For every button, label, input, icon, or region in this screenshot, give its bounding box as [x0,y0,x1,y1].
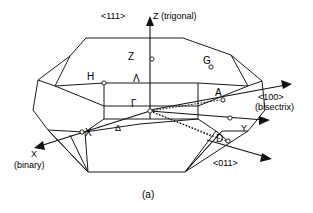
upper-facet-edge-rightmid [231,55,262,81]
lower-front-right-slant [198,119,216,131]
oblique-direction-label: <011> [213,159,238,168]
bisectrix-sub-label: (bisectrix) [255,103,294,112]
point-d-marker [226,139,230,143]
point-h-marker [102,81,106,85]
line-lambda-label: Λ [133,74,140,85]
oblique-direction-arrowhead [260,153,272,162]
figure-caption: (a) [142,190,154,201]
z-axis-direction-label: <111> [101,12,125,21]
bisectrix-axis-arrowhead [281,80,292,89]
x-axis-line [40,111,150,146]
point-gamma-marker [148,109,152,113]
dotted-gamma-to-dcorner [150,111,226,141]
point-a-marker [221,98,225,102]
point-gamma-label: Γ [131,99,137,110]
front-face-link-topright [198,83,248,86]
bottom-strut-left-fan [48,130,88,172]
line-delta-label: Δ [115,124,121,133]
point-z-marker [150,57,154,61]
y-axis-label: Y [241,124,247,133]
y-axis-arrowhead [259,116,270,125]
upper-facet-edge-leftmid [38,56,70,80]
upper-facet-edge-right [248,81,262,86]
point-x-marker [80,130,84,134]
front-face-link-topleft [55,83,104,86]
point-d-label: D [216,134,223,145]
upper-facet-edge-left [38,80,55,86]
point-x-label: X [85,128,92,139]
x-axis-sub-label: (binary) [14,161,45,170]
point-h-label: H [87,72,94,83]
lower-front-mid-left [85,124,140,132]
point-z-label: Z [128,52,134,63]
point-on-y-axis-marker [228,116,232,120]
bottom-face-outline [48,130,222,172]
lower-front-mid-right [140,119,198,124]
left-silhouette [33,80,48,130]
bottom-strut-left-outer [48,130,85,132]
x-axis-label: X [31,150,37,159]
bottom-strut-right-inner [185,131,216,172]
z-axis-label: Z (trigonal) [153,12,197,21]
point-g-label: G [203,56,211,67]
brillouin-zone-figure: <111> Z (trigonal) Z H G A Γ X D Λ Δ <10… [0,0,313,213]
point-a-label: A [215,88,222,99]
